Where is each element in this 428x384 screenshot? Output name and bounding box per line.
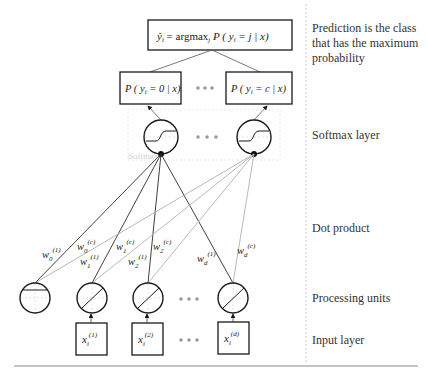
annotation-dot-product: Dot product [312, 221, 370, 236]
input-box-1 [76, 323, 107, 355]
softmax-unit-c [237, 120, 271, 157]
weight-label-w1-1: w1(1) [80, 253, 99, 270]
weight-label-w1-c: w1(c) [116, 238, 135, 255]
processing-unit-1 [77, 283, 107, 313]
annotation-softmax-layer: Softmax layer [312, 128, 380, 143]
annotation-processing-units: Processing units [312, 291, 390, 306]
weights-class-c [35, 154, 254, 283]
ellipsis-dots [179, 86, 218, 342]
input-box-d [218, 322, 249, 354]
weight-label-w2-c: w2(c) [153, 238, 172, 255]
annotation-input-layer: Input layer [312, 333, 364, 348]
edge-pc-to-output [212, 50, 260, 72]
weight-label-wd-1: wd(1) [197, 250, 216, 267]
softmax-faint-label: Softmax [128, 151, 159, 161]
arrow-softmax0-to-p0 [148, 106, 161, 120]
weight-label-w0-1: w0(1) [42, 246, 61, 263]
input-box-2 [132, 323, 163, 355]
bias-unit [20, 283, 50, 313]
processing-unit-2 [133, 283, 163, 313]
processing-unit-d [218, 283, 248, 313]
weight-label-w2-1: w2(1) [128, 253, 147, 270]
arrow-softmaxc-to-pc [254, 106, 267, 120]
argmax-formula: ŷi = argmaxj P ( yi = j | x) [156, 30, 269, 44]
weight-label-wd-c: wd(c) [237, 242, 256, 259]
annotation-prediction: Prediction is the class that has the max… [312, 21, 418, 66]
edge-p0-to-output [150, 50, 212, 72]
